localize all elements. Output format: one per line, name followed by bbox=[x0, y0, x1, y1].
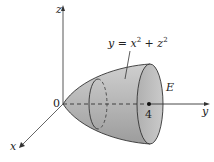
x-axis-label: x bbox=[10, 140, 17, 153]
z-axis bbox=[61, 5, 65, 104]
eq-z-exp: 2 bbox=[163, 36, 167, 44]
eq-plus: + bbox=[141, 37, 157, 50]
origin-label: 0 bbox=[53, 97, 60, 110]
point-at-4 bbox=[147, 102, 151, 106]
z-axis-label: z bbox=[55, 3, 62, 16]
surface-equation: y = x2 + z2 bbox=[107, 36, 168, 50]
region-label: E bbox=[165, 81, 174, 94]
eq-equals: = bbox=[114, 37, 130, 50]
svg-text:y = x2 + z2: y = x2 + z2 bbox=[107, 36, 168, 50]
point-label: 4 bbox=[145, 108, 152, 121]
paraboloid-diagram: z 0 y x 4 E y = x2 + z2 bbox=[0, 0, 214, 162]
x-axis bbox=[19, 104, 63, 148]
y-axis-label: y bbox=[201, 105, 209, 118]
